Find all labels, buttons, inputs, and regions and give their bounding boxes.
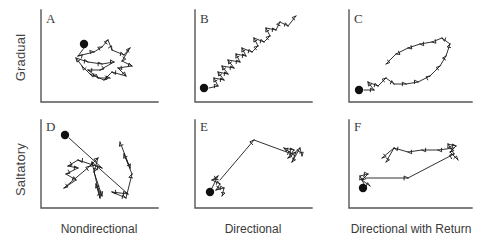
panel-d: D xyxy=(38,118,160,214)
row-label-saltatory: Saltatory xyxy=(13,129,28,211)
panel-a-letter: A xyxy=(46,12,55,25)
panel-a: A xyxy=(38,8,160,108)
panel-e-letter: E xyxy=(200,120,208,133)
panel-c-trajectory xyxy=(355,38,451,94)
panel-d-letter: D xyxy=(46,120,55,133)
panel-a-trajectory xyxy=(76,40,132,80)
panel-c-letter: C xyxy=(354,12,363,25)
panel-c: C xyxy=(346,8,474,108)
trajectory-figure: Gradual Saltatory A xyxy=(0,0,483,244)
panel-f-letter: F xyxy=(354,120,361,133)
panel-e: E xyxy=(192,118,314,214)
column-label-nondirectional: Nondirectional xyxy=(38,222,160,236)
panel-e-trajectory xyxy=(206,140,303,196)
column-label-directional-with-return: Directional with Return xyxy=(342,222,480,236)
panel-b: B xyxy=(192,8,314,108)
column-label-directional: Directional xyxy=(192,222,314,236)
panel-f-trajectory xyxy=(359,144,458,192)
row-label-gradual: Gradual xyxy=(13,20,28,96)
panel-f: F xyxy=(346,118,474,214)
panel-b-trajectory xyxy=(200,16,296,92)
panel-d-trajectory xyxy=(61,131,133,199)
panel-b-letter: B xyxy=(200,12,209,25)
